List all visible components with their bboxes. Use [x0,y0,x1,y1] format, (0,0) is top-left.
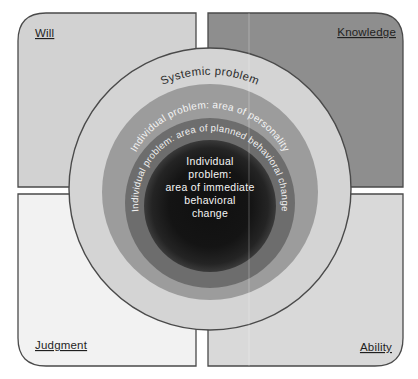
center-label-line: Individual [186,155,233,167]
center-label-line: problem: [188,168,231,180]
center-label-line: area of immediate [165,181,254,193]
center-label-line: behavioral [184,194,235,206]
quadrant-label-ability: Ability [360,341,392,353]
quadrant-onion-diagram: Systemic problem Individual problem: are… [0,0,418,379]
quadrant-label-knowledge: Knowledge [337,26,396,38]
quadrant-label-judgment: Judgment [35,339,88,351]
diagram-canvas: Systemic problem Individual problem: are… [0,0,418,379]
quadrant-label-will: Will [35,27,54,39]
center-label-line: change [192,207,228,219]
